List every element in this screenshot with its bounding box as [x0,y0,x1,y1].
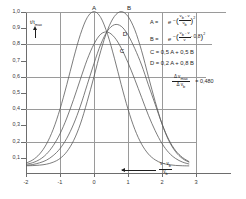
x-tick-label--1: -1 [58,179,63,185]
legend-a-exponent: −( vb - v vb )2 [173,14,195,27]
y-tick-label-0.7: 0,7 [13,58,21,63]
legend-b-exponent: −( vb - v v - 0,8)2 [173,31,205,42]
y-tick-label-0.6: 0,6 [13,74,21,79]
y-tick-label-0.2: 0,2 [13,139,21,144]
legend: A = e −( vb - v vb )2 B = e −( vb - v v … [150,16,246,71]
arrow-right-icon [122,170,156,171]
y-tick-label-0.5: 0,5 [13,90,21,95]
ratio-numerator: Δ vmax [172,74,190,81]
curve-label-c: C [120,48,124,54]
ratio-denominator: Δ vb [172,81,190,89]
legend-b-base: e [168,36,171,42]
ratio-fraction: Δ vmax Δ vb [172,74,190,89]
arrow-right-head [121,168,125,172]
x-tick-label--2: -2 [24,179,29,185]
curve-label-b: B [127,5,131,11]
x-tick-label-3: 3 [194,179,197,185]
legend-equation-a: A = e −( vb - v vb )2 [150,16,246,27]
curve-label-a: A [92,5,96,11]
legend-a-base: e [168,19,171,25]
x-axis-caption-num: v - vb [159,162,172,169]
legend-equation-b: B = e −( vb - v v - 0,8)2 [150,33,246,44]
ratio-annotation: Δ vmax Δ vb = 0,480 [172,74,213,89]
legend-a-lhs: A = [150,19,158,25]
legend-equation-d: D = 0,2 A + 0,8 B [150,60,246,67]
x-axis-caption-den: vb [159,169,172,177]
x-tick-label-0: 0 [92,179,95,185]
x-axis-caption: v - vb vb [159,162,172,176]
x-tick-label-1: 1 [126,179,129,185]
curve-label-d: D [123,31,127,37]
y-tick-label-0.1: 0,1 [13,155,21,160]
y-tick-label-0.3: 0,3 [13,123,21,128]
y-tick-label-0.4: 0,4 [13,106,21,111]
legend-b-lhs: B = [150,36,159,42]
chart-figure: t/tmax 1,0 0,9 0,8 0,7 0,6 0,5 0, [0,0,246,199]
ratio-value: = 0,480 [195,78,213,84]
x-tick-label-2: 2 [160,179,163,185]
y-tick-label-0.9: 0,9 [13,25,21,30]
legend-equation-c: C = 0,5 A + 0,5 B [150,49,246,56]
y-tick-label-0.8: 0,8 [13,42,21,47]
y-tick-label-1.0: 1,0 [13,9,21,14]
